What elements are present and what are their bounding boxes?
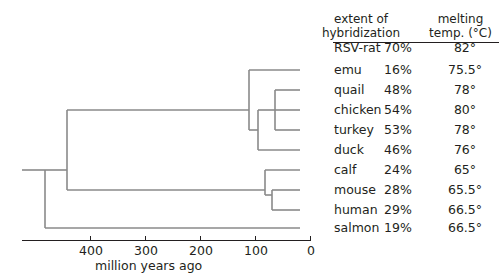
cell-melting-temp: 76° — [432, 140, 498, 160]
axis-tick-label-300: 300 — [126, 243, 166, 258]
cell-melting-temp: 65° — [432, 160, 498, 180]
table-row: human29%66.5° — [300, 200, 503, 220]
cell-melting-temp: 66.5° — [432, 218, 498, 238]
table-row: calf24%65° — [300, 160, 503, 180]
data-table: extent of hybridization melting temp. (°… — [300, 0, 503, 250]
dendrogram — [0, 0, 330, 280]
column-header-hybridization: extent of hybridization — [301, 12, 421, 40]
phylogenetic-tree-figure: 400 300 200 100 0 million years ago exte… — [0, 0, 503, 280]
column-header-hybridization-line1: extent of — [334, 12, 388, 26]
cell-melting-temp: 80° — [432, 100, 498, 120]
cell-hybridization-extent: 28% — [360, 180, 436, 200]
cell-melting-temp: 78° — [432, 80, 498, 100]
table-row: turkey53%78° — [300, 120, 503, 140]
cell-species-name: emu — [334, 60, 362, 80]
cell-melting-temp: 82° — [432, 38, 498, 58]
axis-tick-label-100: 100 — [236, 243, 276, 258]
cell-melting-temp: 78° — [432, 120, 498, 140]
cell-melting-temp: 65.5° — [432, 180, 498, 200]
cell-melting-temp: 75.5° — [432, 60, 498, 80]
cell-hybridization-extent: 24% — [360, 160, 436, 180]
table-row: chicken54%80° — [300, 100, 503, 120]
cell-hybridization-extent: 46% — [360, 140, 436, 160]
cell-hybridization-extent: 16% — [360, 60, 436, 80]
table-row: salmon19%66.5° — [300, 218, 503, 238]
table-row: quail48%78° — [300, 80, 503, 100]
cell-hybridization-extent: 29% — [360, 200, 436, 220]
cell-hybridization-extent: 53% — [360, 120, 436, 140]
cell-hybridization-extent: 70% — [360, 38, 436, 58]
cell-hybridization-extent: 48% — [360, 80, 436, 100]
table-row: RSV-rat70%82° — [300, 38, 503, 58]
cell-melting-temp: 66.5° — [432, 200, 498, 220]
cell-hybridization-extent: 19% — [360, 218, 436, 238]
time-axis — [22, 236, 311, 241]
column-header-melting-temp-line1: melting — [438, 12, 484, 26]
table-row: duck46%76° — [300, 140, 503, 160]
table-row: mouse28%65.5° — [300, 180, 503, 200]
column-header-melting-temp: melting temp. (°C) — [418, 12, 503, 40]
cell-hybridization-extent: 54% — [360, 100, 436, 120]
cell-species-name: calf — [334, 160, 356, 180]
axis-title: million years ago — [95, 258, 202, 273]
axis-tick-label-200: 200 — [181, 243, 221, 258]
axis-tick-label-400: 400 — [71, 243, 111, 258]
table-row: emu16%75.5° — [300, 60, 503, 80]
